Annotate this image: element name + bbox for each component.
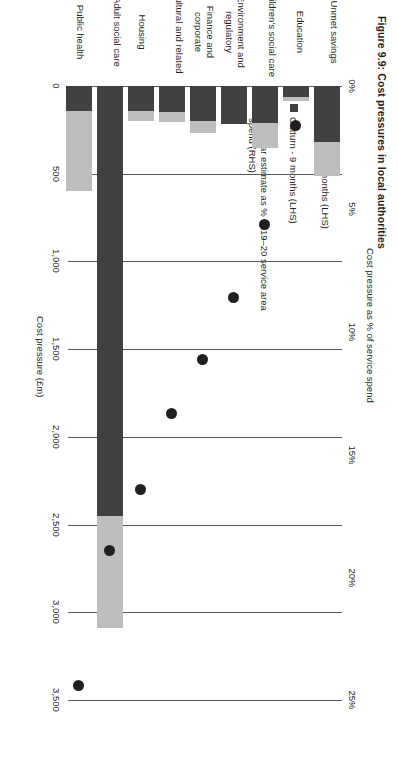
axis-tick-left-1000: 1,000	[51, 249, 62, 273]
category-label-unmet-savings: Unmet savings	[329, 0, 341, 78]
bar-segment-outturn	[128, 86, 154, 111]
bar-segment-forecast	[66, 111, 92, 191]
gridline-3500	[68, 700, 342, 701]
axis-tick-right-20: 20%	[347, 568, 358, 587]
bar-segment-outturn	[97, 86, 123, 516]
axis-tick-right-15: 15%	[347, 445, 358, 464]
axis-tick-left-3500: 3,500	[51, 688, 62, 712]
axis-tick-right-25: 25%	[347, 690, 358, 709]
page-title: Figure 9.9: Cost pressures in local auth…	[376, 16, 388, 249]
bar-segment-outturn	[66, 86, 92, 111]
data-point-full-year-estimate	[105, 545, 116, 556]
data-point-full-year-estimate	[167, 408, 178, 419]
bar-segment-forecast	[128, 111, 154, 121]
rotated-figure-wrapper: Figure 9.9: Cost pressures in local auth…	[0, 0, 398, 758]
bar-segment-outturn	[159, 86, 185, 112]
axis-tick-left-3000: 3,000	[51, 600, 62, 624]
plot-area	[68, 86, 342, 700]
bar-segment-outturn	[190, 86, 216, 121]
axis-tick-left-500: 500	[51, 166, 62, 182]
data-point-full-year-estimate	[136, 484, 147, 495]
data-point-full-year-estimate	[291, 120, 302, 131]
data-point-full-year-estimate	[198, 354, 209, 365]
bar-segment-forecast	[190, 121, 216, 133]
axis-title-right: Cost pressure as % of service spend	[365, 248, 376, 403]
chart-figure: Figure 9.9: Cost pressures in local auth…	[0, 0, 398, 758]
bar-segment-outturn	[221, 86, 247, 124]
axis-tick-left-2000: 2,000	[51, 425, 62, 449]
axis-tick-left-1500: 1,500	[51, 337, 62, 361]
category-label-adult-social-care: Adult social care	[112, 0, 124, 78]
bar-segment-outturn	[314, 86, 340, 142]
bar-segment-outturn	[283, 86, 309, 97]
data-point-full-year-estimate	[229, 292, 240, 303]
bar-segment-forecast	[159, 112, 185, 122]
bar-segment-outturn	[252, 86, 278, 123]
bar-segment-forecast	[314, 142, 340, 176]
data-point-full-year-estimate	[74, 680, 85, 691]
bar-segment-forecast	[283, 97, 309, 101]
category-label-finance-and-corporate: Finance and corporate	[193, 0, 216, 78]
axis-tick-right-5: 5%	[347, 202, 358, 216]
category-label-public-health: Public health	[75, 0, 87, 78]
category-label-cultural-and-related: Cultural and related	[174, 0, 186, 78]
axis-tick-right-10: 10%	[347, 322, 358, 341]
bar-segment-forecast	[252, 123, 278, 148]
axis-tick-right-0: 0%	[347, 79, 358, 93]
category-label-housing: Housing	[137, 0, 149, 78]
data-point-full-year-estimate	[260, 219, 271, 230]
axis-tick-left-0: 0	[51, 83, 62, 88]
bar-segment-forecast	[97, 516, 123, 628]
category-label-education: Education	[295, 0, 307, 78]
category-label-childrens-social-care: Children's social care	[267, 0, 279, 78]
axis-tick-left-2500: 2,500	[51, 513, 62, 537]
axis-title-left: Cost pressure (£m)	[35, 316, 46, 397]
category-label-environment-and-regulatory: Environment and regulatory	[224, 0, 247, 78]
